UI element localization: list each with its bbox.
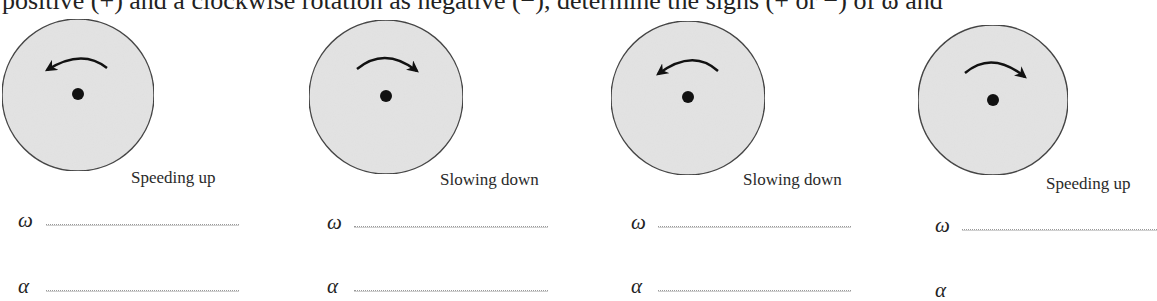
omega-symbol: ω [18,210,33,230]
disk-3-alpha-field[interactable]: α [631,276,856,296]
omega-answer-blank[interactable] [46,224,239,226]
omega-answer-blank[interactable] [962,229,1157,231]
axle-dot [72,88,84,100]
alpha-symbol: α [935,280,946,300]
alpha-answer-blank[interactable] [46,290,239,292]
disk-1-caption: Speeding up [131,168,216,188]
alpha-answer-blank[interactable] [354,290,548,292]
disk-3-omega-field[interactable]: ω [631,212,856,232]
disk-2 [309,20,463,174]
disk-4-caption: Speeding up [1046,174,1131,194]
omega-symbol: ω [935,215,950,235]
axle-dot [380,90,392,102]
axle-dot [987,94,999,106]
disk-2-alpha-field[interactable]: α [327,276,552,296]
axle-dot [682,91,694,103]
omega-answer-blank[interactable] [354,226,548,228]
disk-3-caption: Slowing down [743,170,842,190]
disk-2-caption: Slowing down [440,170,539,190]
disk-2-omega-field[interactable]: ω [327,212,552,232]
alpha-symbol: α [327,276,338,296]
disk-4 [918,25,1068,175]
omega-symbol: ω [631,212,646,232]
disk-1-alpha-field[interactable]: α [18,276,243,296]
disk-1 [2,19,154,171]
alpha-symbol: α [631,276,642,296]
disk-4-alpha-field[interactable]: α [935,280,1154,300]
disk-1-omega-field[interactable]: ω [18,210,243,230]
alpha-symbol: α [18,276,29,296]
omega-answer-blank[interactable] [658,226,851,228]
alpha-answer-blank[interactable] [658,290,851,292]
omega-symbol: ω [327,212,342,232]
disk-3 [611,21,765,175]
disk-4-omega-field[interactable]: ω [935,215,1154,235]
